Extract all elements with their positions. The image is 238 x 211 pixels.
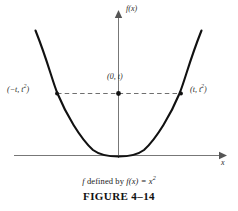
caption-formula-exponent: 2 (153, 175, 156, 181)
point-marker-left (55, 92, 59, 96)
label-mid-point: (0, t) (107, 73, 123, 81)
caption-formula-function: f(x) = x (126, 176, 152, 186)
label-left-point-open: (−t, t (7, 85, 24, 94)
label-left-point: (−t, t2) (7, 86, 29, 94)
caption-formula-middle: defined by (85, 176, 127, 186)
point-marker-right (179, 92, 183, 96)
caption-block: f defined by f(x) = x2 FIGURE 4–14 (0, 176, 238, 202)
label-right-point-open: (t, t (190, 85, 201, 94)
y-axis-label: f(x) (126, 5, 137, 13)
y-axis-arrowhead (115, 10, 122, 18)
label-left-point-close: ) (27, 85, 30, 94)
figure-container: (−t, t2) (0, t) (t, t2) f(x) x f defined… (0, 0, 238, 211)
caption-formula: f defined by f(x) = x2 (0, 176, 238, 186)
point-marker-center (116, 91, 121, 96)
caption-figure-number: FIGURE 4–14 (0, 190, 238, 202)
label-right-point-close: ) (204, 85, 207, 94)
label-right-point: (t, t2) (190, 86, 207, 94)
x-axis-label: x (221, 159, 225, 167)
